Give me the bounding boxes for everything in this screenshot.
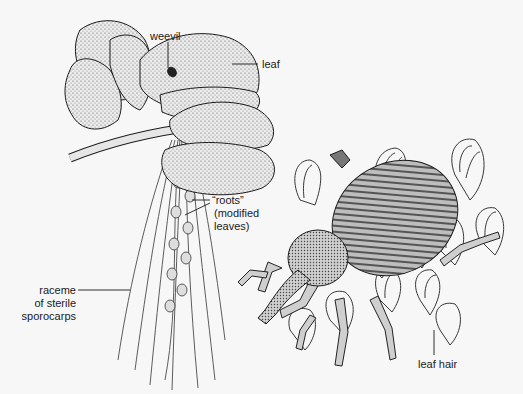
label-roots-1: “roots”	[212, 194, 244, 206]
label-roots-2: (modified	[214, 207, 259, 219]
label-raceme-2: of sterile	[10, 297, 76, 309]
label-raceme-1: raceme	[20, 284, 76, 296]
label-roots-3: leaves)	[214, 220, 249, 232]
label-leaf: leaf	[262, 58, 280, 70]
label-raceme-3: sporocarps	[4, 310, 76, 322]
label-leaf-hair: leaf hair	[418, 358, 457, 370]
weevil-drawing	[238, 138, 504, 366]
label-weevil: weevil	[150, 30, 181, 42]
